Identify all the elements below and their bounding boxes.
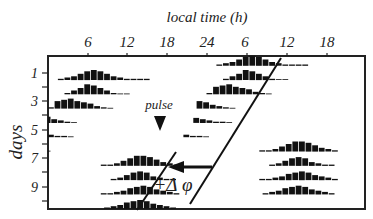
actogram-chart: local time (h) 6 12 18 24 6 12 18 1 bbox=[0, 0, 373, 219]
activity-bar bbox=[91, 86, 97, 95]
x-tick-label: 18 bbox=[320, 34, 336, 50]
activity-bar bbox=[131, 173, 137, 181]
activity-bar bbox=[104, 91, 110, 95]
activity-bar bbox=[193, 118, 199, 123]
activity-bar bbox=[329, 165, 335, 166]
y-tick-label: 1 bbox=[31, 66, 38, 81]
activity-bar bbox=[266, 94, 272, 95]
activity-bar bbox=[84, 84, 90, 94]
activity-bar bbox=[296, 186, 302, 195]
activity-bar bbox=[223, 63, 229, 65]
activity-bar bbox=[65, 93, 71, 94]
x-tick-label: 6 bbox=[84, 34, 92, 50]
activity-bar bbox=[223, 107, 229, 108]
activity-bar bbox=[98, 71, 104, 80]
activity-bar bbox=[114, 192, 120, 195]
y-tick-label: 5 bbox=[31, 123, 38, 138]
activity-bar bbox=[121, 191, 127, 195]
activity-bar bbox=[296, 157, 302, 166]
phase-line-long bbox=[190, 58, 281, 204]
activity-bar bbox=[104, 74, 110, 80]
activity-bar bbox=[48, 107, 54, 108]
activity-bar bbox=[65, 78, 71, 81]
activity-bar bbox=[200, 119, 206, 123]
activity-bar bbox=[114, 163, 120, 166]
x-axis-title: local time (h) bbox=[167, 9, 248, 26]
activity-bar bbox=[207, 93, 213, 94]
activity-bar bbox=[61, 100, 67, 109]
activity-bar bbox=[230, 108, 236, 109]
pulse-marker-icon bbox=[154, 116, 166, 131]
activity-bar bbox=[259, 179, 265, 180]
activity-bar bbox=[332, 179, 338, 180]
activity-bar bbox=[104, 208, 110, 209]
activity-bar bbox=[203, 102, 209, 108]
activity-bar bbox=[127, 158, 133, 166]
activity-bar bbox=[137, 79, 143, 80]
activity-bar bbox=[322, 165, 328, 166]
activity-bar bbox=[144, 79, 150, 80]
activity-bar bbox=[302, 65, 308, 66]
activity-bar bbox=[141, 186, 147, 195]
activity-bar bbox=[210, 105, 216, 109]
activity-bar bbox=[101, 107, 107, 108]
activity-bar bbox=[216, 106, 222, 109]
activity-bar bbox=[273, 149, 279, 152]
activity-bar bbox=[226, 122, 232, 123]
activity-bar bbox=[111, 179, 117, 180]
activity-bar bbox=[266, 150, 272, 151]
activity-bar bbox=[101, 193, 107, 194]
activity-bar bbox=[134, 156, 140, 166]
activity-bar bbox=[266, 179, 272, 180]
activity-bar bbox=[220, 86, 226, 95]
activity-bar bbox=[150, 204, 156, 209]
activity-bar bbox=[111, 93, 117, 94]
activity-bar bbox=[68, 99, 74, 109]
activity-bar bbox=[256, 74, 262, 80]
activity-bar bbox=[282, 65, 288, 66]
activity-bar bbox=[306, 173, 312, 181]
activity-bar bbox=[48, 151, 51, 152]
activity-bar bbox=[259, 150, 265, 151]
activity-bar bbox=[144, 173, 150, 181]
activity-bar bbox=[279, 147, 285, 152]
activity-bar bbox=[94, 106, 100, 109]
activity-bar bbox=[68, 136, 74, 137]
activity-histograms bbox=[48, 56, 338, 209]
activity-bar bbox=[302, 158, 308, 166]
activity-bar bbox=[296, 65, 302, 66]
activity-bar bbox=[141, 156, 147, 166]
activity-bar bbox=[117, 205, 123, 209]
y-tick-labels: 1 3 5 7 9 bbox=[30, 66, 39, 195]
activity-bar bbox=[289, 158, 295, 166]
activity-bar bbox=[124, 79, 130, 80]
activity-bar bbox=[279, 176, 285, 180]
x-tick-label: 12 bbox=[120, 34, 136, 50]
activity-bar bbox=[117, 78, 123, 81]
activity-bar bbox=[299, 142, 305, 152]
activity-bar bbox=[282, 79, 288, 80]
activity-bar bbox=[78, 88, 84, 94]
activity-bar bbox=[213, 87, 219, 95]
activity-bar bbox=[312, 145, 318, 151]
activity-bar bbox=[309, 189, 315, 194]
activity-bar bbox=[107, 165, 113, 166]
activity-bar bbox=[233, 87, 239, 95]
activity-bar bbox=[286, 144, 292, 152]
activity-bar bbox=[55, 101, 61, 109]
activity-bar bbox=[197, 136, 203, 137]
activity-bar bbox=[230, 62, 236, 66]
x-tick-label: 24 bbox=[200, 34, 216, 50]
y-tick-label: 3 bbox=[30, 94, 38, 109]
activity-bar bbox=[98, 88, 104, 94]
activity-bar bbox=[325, 178, 331, 181]
activity-bar bbox=[124, 94, 130, 95]
activity-bar bbox=[263, 193, 269, 194]
activity-bar bbox=[243, 70, 249, 80]
y-tick-label: 9 bbox=[31, 180, 38, 195]
activity-bar bbox=[329, 193, 335, 194]
activity-bar bbox=[203, 136, 209, 137]
activity-bar bbox=[107, 193, 113, 194]
activity-bar bbox=[319, 176, 325, 180]
activity-bar bbox=[117, 94, 123, 95]
